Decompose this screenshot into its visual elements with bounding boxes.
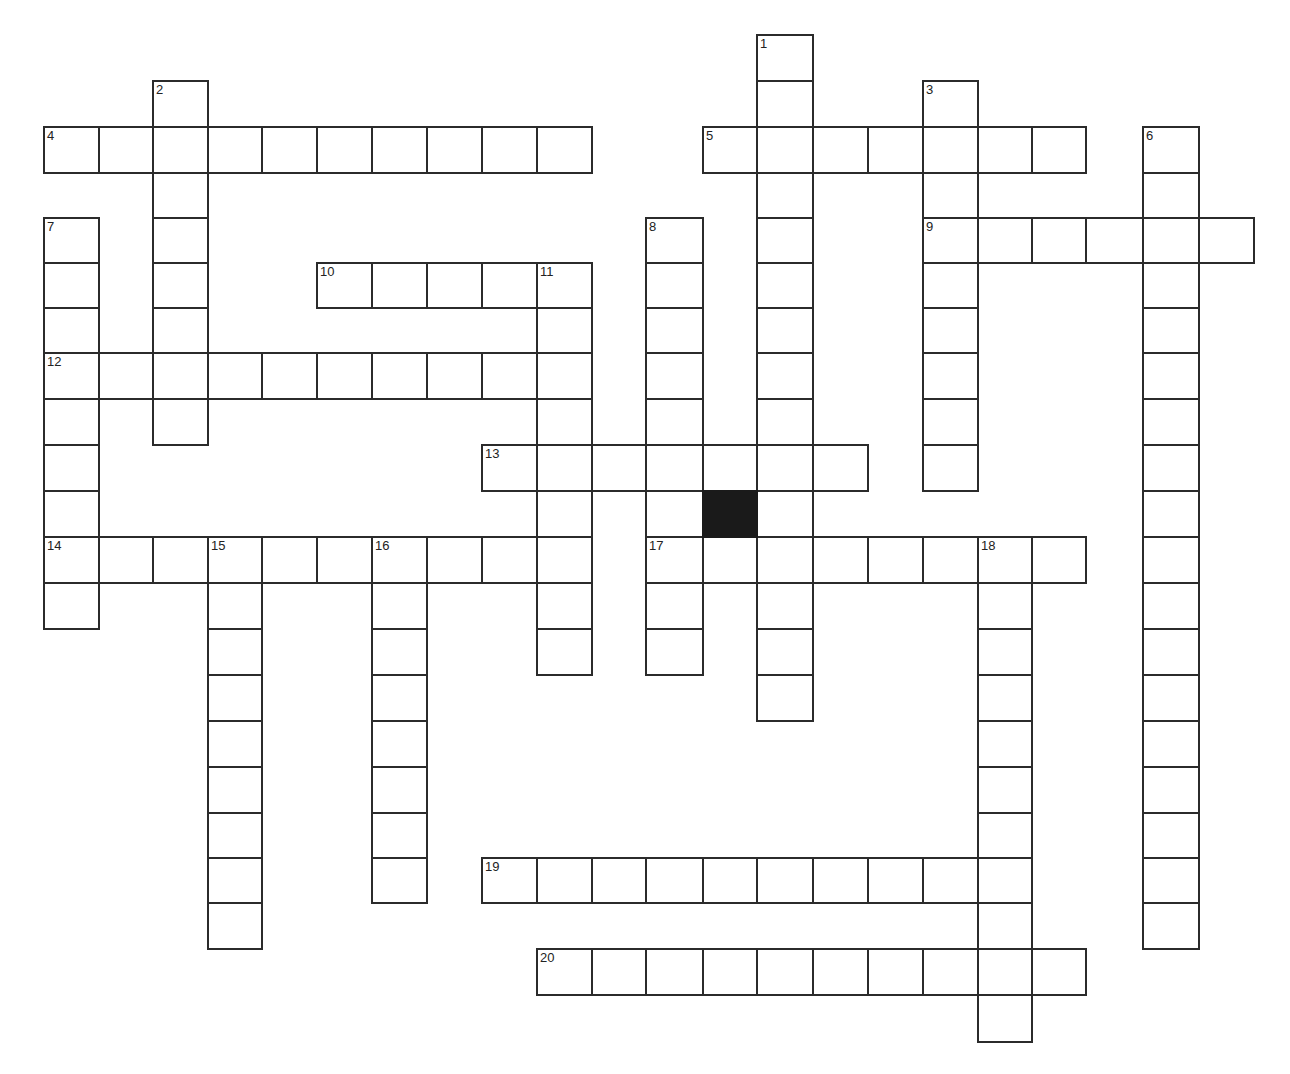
letter-input[interactable] <box>869 128 922 172</box>
letter-input[interactable] <box>263 354 316 398</box>
crossword-cell[interactable] <box>536 126 593 174</box>
crossword-cell[interactable] <box>536 536 593 584</box>
crossword-cell[interactable] <box>536 352 593 400</box>
crossword-cell[interactable] <box>1142 812 1200 859</box>
crossword-cell[interactable] <box>756 674 814 722</box>
crossword-cell[interactable]: 5 <box>702 126 758 174</box>
crossword-cell[interactable] <box>1142 857 1200 904</box>
crossword-cell[interactable] <box>756 398 814 446</box>
crossword-cell[interactable] <box>922 307 979 354</box>
crossword-cell[interactable] <box>371 766 428 814</box>
letter-input[interactable] <box>924 128 977 172</box>
crossword-cell[interactable] <box>756 536 814 584</box>
letter-input[interactable] <box>647 950 702 994</box>
crossword-cell[interactable] <box>1142 536 1200 584</box>
crossword-cell[interactable] <box>1142 307 1200 354</box>
crossword-cell[interactable] <box>207 766 263 814</box>
crossword-cell[interactable] <box>426 262 483 309</box>
crossword-cell[interactable] <box>867 857 924 904</box>
letter-input[interactable] <box>924 400 977 444</box>
letter-input[interactable] <box>758 219 812 262</box>
letter-input[interactable] <box>647 584 702 628</box>
letter-input[interactable] <box>979 676 1031 720</box>
crossword-cell[interactable] <box>1031 536 1087 584</box>
letter-input[interactable] <box>647 264 702 307</box>
letter-input[interactable] <box>45 354 98 398</box>
crossword-cell[interactable] <box>43 444 100 492</box>
letter-input[interactable] <box>1144 492 1198 536</box>
letter-input[interactable] <box>538 400 591 444</box>
crossword-cell[interactable] <box>702 948 758 996</box>
letter-input[interactable] <box>428 354 481 398</box>
letter-input[interactable] <box>154 264 207 307</box>
letter-input[interactable] <box>1200 219 1253 262</box>
letter-input[interactable] <box>979 814 1031 857</box>
letter-input[interactable] <box>209 768 261 812</box>
crossword-cell[interactable] <box>756 307 814 354</box>
letter-input[interactable] <box>869 859 922 902</box>
letter-input[interactable] <box>318 264 371 307</box>
crossword-cell[interactable] <box>371 720 428 768</box>
crossword-cell[interactable] <box>98 536 154 584</box>
letter-input[interactable] <box>924 538 977 582</box>
crossword-cell[interactable] <box>371 262 428 309</box>
letter-input[interactable] <box>593 446 645 490</box>
letter-input[interactable] <box>647 446 702 490</box>
crossword-cell[interactable] <box>481 126 538 174</box>
letter-input[interactable] <box>758 859 812 902</box>
letter-input[interactable] <box>704 950 756 994</box>
letter-input[interactable] <box>814 538 867 582</box>
letter-input[interactable] <box>318 128 371 172</box>
crossword-cell[interactable] <box>756 582 814 630</box>
crossword-cell[interactable] <box>591 857 647 904</box>
crossword-cell[interactable]: 1 <box>756 34 814 82</box>
letter-input[interactable] <box>979 904 1031 948</box>
letter-input[interactable] <box>45 492 98 536</box>
letter-input[interactable] <box>538 128 591 172</box>
crossword-cell[interactable]: 19 <box>481 857 538 904</box>
crossword-cell[interactable] <box>645 444 704 492</box>
letter-input[interactable] <box>979 219 1031 262</box>
crossword-cell[interactable] <box>977 948 1033 996</box>
crossword-cell[interactable] <box>152 536 209 584</box>
letter-input[interactable] <box>209 814 261 857</box>
crossword-cell[interactable] <box>152 307 209 354</box>
letter-input[interactable] <box>373 354 426 398</box>
letter-input[interactable] <box>647 492 702 536</box>
crossword-cell[interactable]: 16 <box>371 536 428 584</box>
letter-input[interactable] <box>538 354 591 398</box>
letter-input[interactable] <box>154 82 207 126</box>
letter-input[interactable] <box>814 859 867 902</box>
letter-input[interactable] <box>758 264 812 307</box>
letter-input[interactable] <box>154 309 207 352</box>
letter-input[interactable] <box>1033 538 1085 582</box>
crossword-cell[interactable] <box>645 352 704 400</box>
letter-input[interactable] <box>45 446 98 490</box>
letter-input[interactable] <box>209 630 261 674</box>
crossword-cell[interactable] <box>1142 398 1200 446</box>
letter-input[interactable] <box>924 82 977 126</box>
letter-input[interactable] <box>45 128 98 172</box>
crossword-cell[interactable]: 4 <box>43 126 100 174</box>
crossword-cell[interactable] <box>645 857 704 904</box>
crossword-cell[interactable] <box>1031 126 1087 174</box>
crossword-cell[interactable]: 6 <box>1142 126 1200 174</box>
crossword-cell[interactable] <box>922 536 979 584</box>
crossword-cell[interactable]: 10 <box>316 262 373 309</box>
letter-input[interactable] <box>979 584 1031 628</box>
letter-input[interactable] <box>209 128 261 172</box>
crossword-cell[interactable] <box>152 262 209 309</box>
letter-input[interactable] <box>538 630 591 674</box>
crossword-cell[interactable] <box>371 352 428 400</box>
letter-input[interactable] <box>538 584 591 628</box>
letter-input[interactable] <box>483 538 536 582</box>
crossword-cell[interactable] <box>922 857 979 904</box>
crossword-cell[interactable] <box>977 628 1033 676</box>
crossword-cell[interactable] <box>591 444 647 492</box>
letter-input[interactable] <box>704 538 756 582</box>
crossword-cell[interactable] <box>977 217 1033 264</box>
crossword-cell[interactable] <box>207 582 263 630</box>
letter-input[interactable] <box>45 309 98 352</box>
crossword-cell[interactable] <box>977 857 1033 904</box>
crossword-cell[interactable] <box>977 720 1033 768</box>
